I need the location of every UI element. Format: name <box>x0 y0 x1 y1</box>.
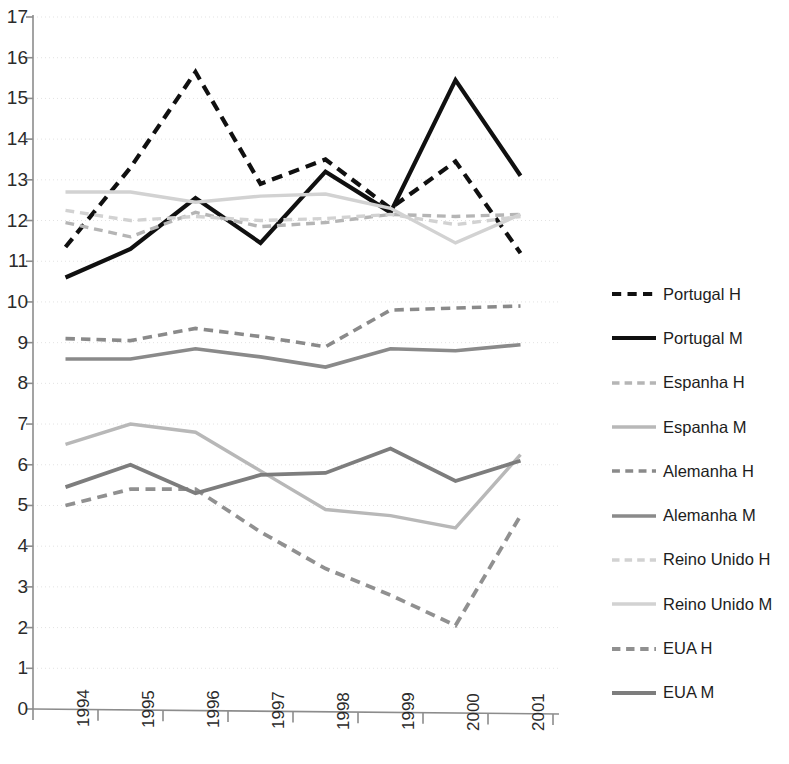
y-tick-label: 11 <box>0 250 28 272</box>
y-tick-label: 9 <box>0 332 28 354</box>
chart-legend: Portugal HPortugal MEspanha HEspanha MAl… <box>612 272 787 715</box>
legend-label: EUA M <box>663 683 714 702</box>
y-tick-label: 17 <box>0 6 28 28</box>
series-line <box>66 424 521 528</box>
legend-line-swatch <box>612 597 656 611</box>
legend-item-eua-h[interactable]: EUA H <box>612 626 787 670</box>
line-chart: 17161514131211109876543210 1994199519961… <box>0 0 789 764</box>
legend-line-swatch <box>612 287 656 301</box>
legend-line-swatch <box>612 464 656 478</box>
series-line <box>66 306 521 347</box>
legend-label: Espanha H <box>663 373 745 392</box>
x-tick-label: 1996 <box>204 690 224 728</box>
legend-item-portugal-m[interactable]: Portugal M <box>612 316 787 360</box>
legend-label: Reino Unido M <box>663 595 772 614</box>
y-tick-label: 15 <box>0 87 28 109</box>
y-tick-label: 10 <box>0 291 28 313</box>
legend-item-alemanha-h[interactable]: Alemanha H <box>612 449 787 493</box>
legend-item-reino-unido-m[interactable]: Reino Unido M <box>612 582 787 626</box>
x-tick-label: 2000 <box>464 693 484 731</box>
legend-label: EUA H <box>663 639 713 658</box>
y-tick-label: 1 <box>0 657 28 679</box>
x-tick-label: 2001 <box>529 694 549 732</box>
y-tick-label: 5 <box>0 494 28 516</box>
legend-line-swatch <box>612 686 656 700</box>
y-tick-label: 14 <box>0 128 28 150</box>
legend-line-swatch <box>612 420 656 434</box>
x-tick-label: 1995 <box>139 690 159 728</box>
legend-label: Espanha M <box>663 418 746 437</box>
series-line <box>66 212 521 236</box>
series-line <box>66 489 521 625</box>
x-tick-label: 1998 <box>334 692 354 730</box>
series-line <box>66 345 521 367</box>
y-tick-label: 8 <box>0 372 28 394</box>
y-tick-label: 0 <box>0 698 28 720</box>
y-tick-label: 6 <box>0 454 28 476</box>
legend-label: Reino Unido H <box>663 550 770 569</box>
legend-line-swatch <box>612 331 656 345</box>
y-tick-label: 12 <box>0 210 28 232</box>
legend-item-espanha-m[interactable]: Espanha M <box>612 405 787 449</box>
y-tick-label: 7 <box>0 413 28 435</box>
legend-line-swatch <box>612 376 656 390</box>
x-tick-label: 1997 <box>269 691 289 729</box>
legend-item-espanha-h[interactable]: Espanha H <box>612 361 787 405</box>
legend-label: Portugal M <box>663 329 743 348</box>
legend-line-swatch <box>612 509 656 523</box>
y-tick-label: 4 <box>0 535 28 557</box>
legend-item-eua-m[interactable]: EUA M <box>612 671 787 715</box>
legend-label: Alemanha H <box>663 462 754 481</box>
axes <box>26 15 559 725</box>
series-line <box>66 448 521 493</box>
legend-line-swatch <box>612 642 656 656</box>
legend-item-reino-unido-h[interactable]: Reino Unido H <box>612 538 787 582</box>
series-group <box>66 72 521 626</box>
x-tick-label: 1994 <box>74 689 94 727</box>
legend-item-alemanha-m[interactable]: Alemanha M <box>612 493 787 537</box>
legend-label: Portugal H <box>663 285 741 304</box>
y-tick-label: 16 <box>0 47 28 69</box>
y-tick-label: 13 <box>0 169 28 191</box>
legend-label: Alemanha M <box>663 506 756 525</box>
y-tick-label: 2 <box>0 617 28 639</box>
series-line <box>66 80 521 277</box>
legend-line-swatch <box>612 553 656 567</box>
legend-item-portugal-h[interactable]: Portugal H <box>612 272 787 316</box>
y-tick-label: 3 <box>0 576 28 598</box>
x-tick-label: 1999 <box>399 692 419 730</box>
